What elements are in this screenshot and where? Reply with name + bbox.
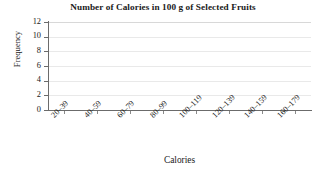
y-tick-mark-0 [44, 110, 48, 111]
y-tick-mark-12 [44, 22, 48, 23]
y-tick-mark-6 [44, 66, 48, 67]
x-tick-mark-6 [262, 111, 263, 114]
x-tick-mark-4 [196, 111, 197, 114]
gridline-4 [48, 81, 311, 82]
y-tick-mark-10 [44, 37, 48, 38]
x-axis-title: Calories [48, 155, 311, 165]
chart-title: Number of Calories in 100 g of Selected … [0, 2, 326, 12]
x-tick-mark-3 [163, 111, 164, 114]
y-tick-mark-8 [44, 51, 48, 52]
y-tick-label-2: 2 [1, 91, 41, 99]
gridline-6 [48, 66, 311, 67]
gridline-12 [48, 22, 311, 23]
chart-container: Number of Calories in 100 g of Selected … [0, 0, 326, 177]
y-axis-line [48, 21, 49, 111]
x-tick-mark-5 [229, 111, 230, 114]
gridline-2 [48, 95, 311, 96]
x-tick-mark-2 [130, 111, 131, 114]
x-tick-mark-1 [97, 111, 98, 114]
y-tick-mark-2 [44, 95, 48, 96]
y-tick-mark-4 [44, 81, 48, 82]
plot-area [48, 22, 311, 110]
x-tick-mark-0 [64, 111, 65, 114]
y-axis-title: Frequency [12, 19, 22, 79]
x-tick-mark-7 [295, 111, 296, 114]
gridline-8 [48, 51, 311, 52]
y-tick-label-0: 0 [1, 106, 41, 114]
gridline-10 [48, 37, 311, 38]
